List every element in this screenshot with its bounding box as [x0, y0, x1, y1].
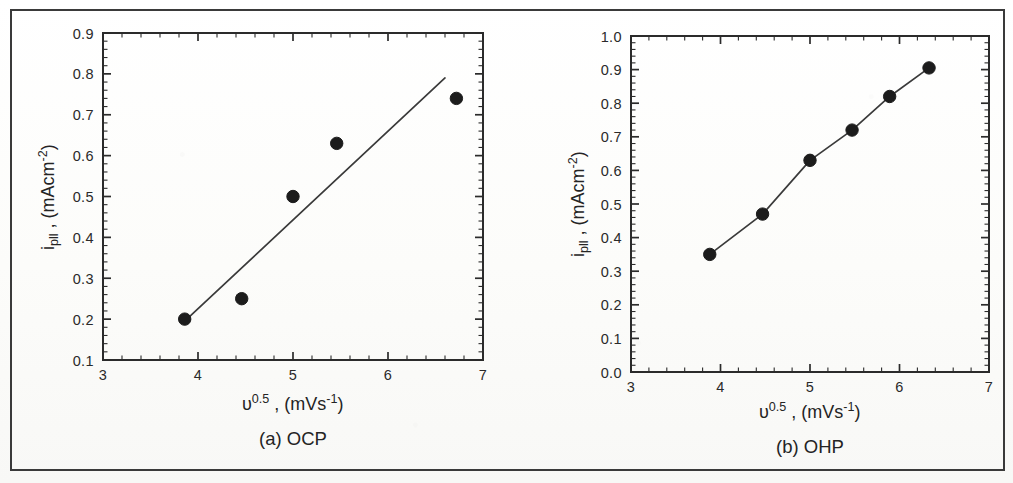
x-tick-label: 5	[289, 367, 297, 383]
data-point	[923, 62, 935, 74]
y-tick-label: 0.6	[73, 148, 94, 164]
data-point	[704, 248, 716, 260]
y-tick-label: 0.8	[601, 96, 622, 112]
y-tick-label: 0.1	[73, 353, 94, 369]
data-point	[236, 292, 248, 304]
data-point	[331, 137, 343, 149]
data-point	[179, 313, 191, 325]
y-tick-label: 0.5	[73, 189, 94, 205]
x-axis-title-ocp: υ0.5 , (mVs-1)	[242, 392, 344, 415]
y-tick-label: 0.0	[601, 365, 622, 381]
y-axis-title-ocp: ipll , (mAcm-2)	[36, 144, 60, 250]
y-tick-label: 0.7	[73, 107, 94, 123]
series-line	[185, 78, 445, 321]
y-tick-label: 0.8	[73, 66, 94, 82]
y-tick-label: 0.2	[601, 297, 622, 313]
data-point	[846, 124, 858, 136]
x-tick-label: 7	[479, 367, 487, 383]
y-tick-label: 0.3	[601, 264, 622, 280]
x-tick-label: 4	[716, 379, 724, 395]
y-tick-label: 0.3	[73, 271, 94, 287]
y-tick-label: 0.1	[601, 331, 622, 347]
x-tick-label: 4	[194, 367, 202, 383]
x-axis-title-ohp: υ0.5 , (mVs-1)	[759, 400, 861, 423]
plot-area-ocp: 345670.10.20.30.40.50.60.70.80.9	[0, 0, 506, 420]
data-point	[804, 154, 816, 166]
data-point	[287, 190, 299, 202]
x-tick-label: 7	[985, 379, 993, 395]
y-axis-title-ohp: ipll , (mAcm-2)	[566, 151, 590, 257]
x-tick-label: 6	[895, 379, 903, 395]
y-tick-label: 0.7	[601, 129, 622, 145]
y-tick-label: 0.4	[73, 230, 94, 246]
plot-frame	[631, 36, 989, 372]
y-tick-label: 0.9	[601, 62, 622, 78]
y-tick-label: 0.2	[73, 312, 94, 328]
data-point	[450, 92, 462, 104]
x-tick-label: 6	[384, 367, 392, 383]
y-tick-label: 0.9	[73, 26, 94, 42]
y-tick-label: 1.0	[601, 29, 622, 45]
y-tick-label: 0.4	[601, 230, 622, 246]
data-point	[756, 208, 768, 220]
y-tick-label: 0.6	[601, 163, 622, 179]
y-tick-label: 0.5	[601, 197, 622, 213]
panel-ocp: 345670.10.20.30.40.50.60.70.80.9 ipll , …	[0, 0, 506, 483]
panel-caption-ocp: (a) OCP	[259, 428, 327, 450]
x-tick-label: 3	[627, 379, 635, 395]
data-point	[883, 90, 895, 102]
x-tick-label: 3	[99, 367, 107, 383]
figure-root: 345670.10.20.30.40.50.60.70.80.9 ipll , …	[0, 0, 1013, 483]
panel-caption-ohp: (b) OHP	[776, 436, 844, 458]
x-tick-label: 5	[806, 379, 814, 395]
panel-ohp: 345670.00.10.20.30.40.50.60.70.80.91.0 i…	[506, 0, 1013, 483]
